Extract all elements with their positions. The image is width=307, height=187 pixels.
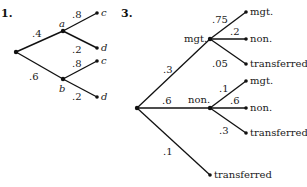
- edge-probability: .3: [163, 64, 173, 75]
- node-dot: [14, 50, 18, 54]
- node-label: transferred: [250, 58, 307, 69]
- diagram-number: 1.: [1, 7, 12, 20]
- node-dot: [244, 106, 248, 110]
- edge-probability: .4: [32, 28, 42, 39]
- node-label: c: [101, 7, 107, 18]
- node-dot: [95, 59, 99, 63]
- node-dot: [61, 77, 65, 81]
- node-label: c: [101, 55, 107, 66]
- edge-root-transferred: [137, 108, 210, 175]
- node-dot: [244, 79, 248, 83]
- node-label: mgt.: [250, 6, 273, 17]
- node-dot: [95, 46, 99, 50]
- node-label: mgt.: [250, 75, 273, 86]
- node-label: transferred: [250, 127, 307, 138]
- edge-probability: .1: [219, 83, 229, 94]
- edge-probability: .3: [219, 125, 229, 136]
- node-dot: [244, 37, 248, 41]
- edge-probability: .6: [29, 71, 39, 82]
- node-dot: [208, 37, 212, 41]
- node-dot: [244, 62, 248, 66]
- edge-probability: .6: [162, 95, 172, 106]
- node-dot: [95, 95, 99, 99]
- edge-probability: .1: [163, 146, 173, 157]
- diagram-svg: 1. a b c d c d .4 .6 .8 .2 .8 .2: [0, 0, 307, 187]
- edge-probability: .05: [212, 58, 228, 69]
- edge-probability: .2: [230, 26, 240, 37]
- edge-probability: .2: [72, 91, 82, 102]
- diagram-number: 3.: [121, 7, 132, 20]
- edge-probability: .2: [72, 44, 82, 55]
- edge-root-b: [16, 52, 63, 79]
- node-dot: [95, 11, 99, 15]
- node-dot: [208, 173, 212, 177]
- node-dot: [244, 131, 248, 135]
- node-label: d: [101, 42, 107, 53]
- node-label: non.: [250, 102, 272, 113]
- node-label: non.: [188, 94, 210, 105]
- node-label: mgt.: [184, 33, 207, 44]
- edge-probability: .8: [72, 58, 82, 69]
- tree-diagram-1: [16, 13, 97, 97]
- node-dot: [135, 106, 139, 110]
- tree-1-nodes: [14, 11, 99, 99]
- tree-diagrams: 1. a b c d c d .4 .6 .8 .2 .8 .2: [0, 0, 307, 187]
- node-label: a: [59, 18, 65, 29]
- node-label: d: [101, 91, 107, 102]
- node-label: non.: [250, 33, 272, 44]
- edge-probability: .6: [230, 95, 240, 106]
- node-dot: [244, 10, 248, 14]
- edge-probability: .8: [72, 9, 82, 20]
- node-label: b: [59, 83, 65, 94]
- edge-probability: .75: [212, 14, 228, 25]
- node-dot: [208, 106, 212, 110]
- node-dot: [61, 29, 65, 33]
- node-label: transferred: [214, 169, 272, 180]
